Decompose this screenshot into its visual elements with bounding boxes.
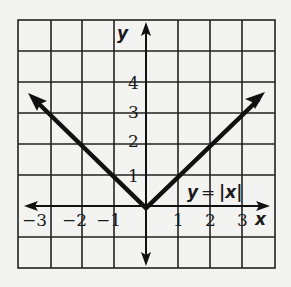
right-ray-arrow-icon <box>245 92 265 109</box>
y-tick-2: 2 <box>128 131 139 151</box>
y-tick-3: 3 <box>128 102 139 122</box>
equation-equals: = <box>201 182 215 202</box>
equation-label: y = |x| <box>187 182 242 202</box>
y-tick-4: 4 <box>128 73 139 93</box>
x-tick-1: 1 <box>173 210 184 230</box>
x-tick-neg2: −2 <box>62 210 87 230</box>
x-tick-neg3: −3 <box>22 210 47 230</box>
equation-abs-x: |x| <box>219 182 242 202</box>
x-tick-3: 3 <box>237 210 248 230</box>
x-axis-label: x <box>254 209 267 229</box>
x-tick-neg1: −1 <box>96 210 121 230</box>
equation-y: y <box>187 182 199 202</box>
y-axis-label: y <box>117 23 129 43</box>
graph-canvas: y x 4 3 2 1 −3 −2 −1 1 2 3 y = |x| <box>0 0 291 287</box>
y-tick-1: 1 <box>128 166 139 186</box>
x-tick-2: 2 <box>205 210 216 230</box>
